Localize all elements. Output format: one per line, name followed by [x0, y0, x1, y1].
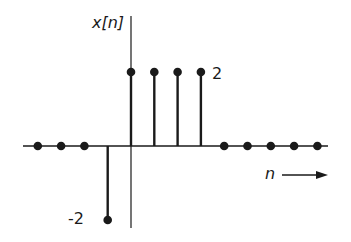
stem-marker: [80, 142, 89, 151]
y-axis-label: x[n]: [92, 15, 124, 31]
x-axis-label: n: [265, 166, 275, 182]
stem-marker: [103, 216, 112, 225]
stem-marker: [197, 68, 206, 77]
positive-value-annotation: 2: [212, 66, 222, 82]
x-axis-arrow-icon: [282, 171, 328, 179]
stem-marker: [34, 142, 43, 151]
stem-marker: [267, 142, 276, 151]
stem-marker: [173, 68, 182, 77]
stem-marker: [243, 142, 252, 151]
stem-plot: [0, 0, 351, 242]
stem-marker: [290, 142, 299, 151]
negative-value-annotation: -2: [68, 211, 84, 227]
stem-marker: [313, 142, 322, 151]
stem-marker: [57, 142, 66, 151]
stem-marker: [127, 68, 136, 77]
stem-marker: [220, 142, 229, 151]
stem-marker: [150, 68, 159, 77]
